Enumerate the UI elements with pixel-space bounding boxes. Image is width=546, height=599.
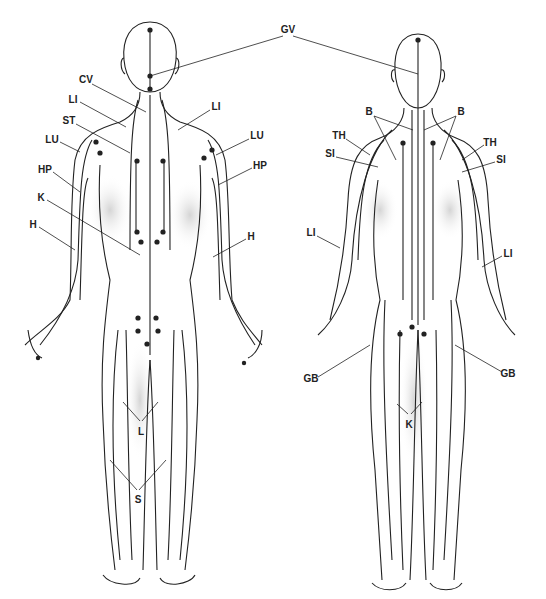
back-figure xyxy=(317,34,515,590)
label-gv: GV xyxy=(281,25,295,35)
label-b-left: B xyxy=(365,107,372,117)
label-li-front-right: LI xyxy=(212,102,221,112)
label-s: S xyxy=(135,495,142,505)
label-gb-right: GB xyxy=(501,369,516,379)
label-li-back-right: LI xyxy=(504,249,513,259)
front-figure xyxy=(25,22,418,584)
label-k-front: K xyxy=(37,193,44,203)
label-cv: CV xyxy=(79,75,93,85)
label-lu-right: LU xyxy=(250,131,263,141)
label-k-back: K xyxy=(405,420,412,430)
label-b-right: B xyxy=(457,107,464,117)
label-l: L xyxy=(138,427,144,437)
label-si-right: SI xyxy=(496,155,505,165)
label-th-left: TH xyxy=(332,131,345,141)
label-h-right: H xyxy=(247,232,254,242)
label-lu-left: LU xyxy=(45,135,58,145)
meridian-diagram xyxy=(0,0,546,599)
label-li-front-left: LI xyxy=(69,95,78,105)
label-th-right: TH xyxy=(483,138,496,148)
label-hp-left: HP xyxy=(38,165,52,175)
label-st: ST xyxy=(63,116,76,126)
label-gb-left: GB xyxy=(304,374,319,384)
label-h-left: H xyxy=(29,220,36,230)
label-hp-right: HP xyxy=(253,161,267,171)
label-li-back-left: LI xyxy=(307,228,316,238)
label-si-left: SI xyxy=(325,149,334,159)
